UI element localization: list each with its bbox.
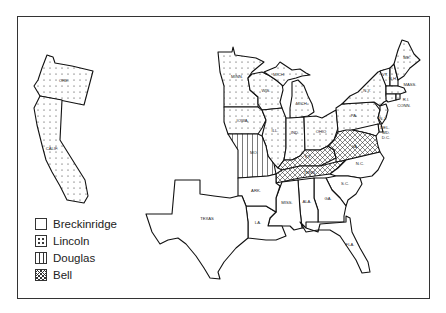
svg-text:OHIO: OHIO — [316, 129, 327, 134]
svg-text:ILL.: ILL. — [272, 128, 279, 133]
state-michigan: MICH. — [290, 80, 314, 118]
svg-text:N.Y.: N.Y. — [363, 88, 371, 93]
svg-text:KY.: KY. — [305, 154, 311, 159]
vertical-lines-swatch-icon — [35, 252, 47, 264]
svg-text:LA.: LA. — [255, 220, 261, 225]
svg-text:TEXAS: TEXAS — [200, 216, 214, 221]
svg-text:ORE.: ORE. — [59, 78, 69, 83]
svg-text:VT.: VT. — [382, 72, 388, 77]
svg-text:PA.: PA. — [351, 113, 357, 118]
svg-text:MISS.: MISS. — [281, 200, 292, 205]
crosshatch-swatch-icon — [35, 269, 47, 281]
state-new-jersey: N.J. — [378, 104, 388, 124]
svg-text:GA.: GA. — [324, 196, 331, 201]
dot-pattern-swatch-icon — [35, 235, 47, 247]
svg-text:FLA.: FLA. — [346, 242, 355, 247]
legend-item-bell: Bell — [35, 266, 117, 283]
state-rhode-island: R.I. — [396, 94, 409, 102]
svg-text:ME.: ME. — [403, 55, 410, 60]
svg-text:TENN.: TENN. — [304, 170, 317, 175]
state-texas: TEXAS — [146, 180, 248, 279]
svg-text:MICH.: MICH. — [273, 72, 285, 77]
svg-text:MASS.: MASS. — [403, 82, 416, 87]
svg-text:IND.: IND. — [291, 130, 299, 135]
svg-text:MICH.: MICH. — [296, 101, 308, 106]
svg-text:MINN.: MINN. — [231, 74, 243, 79]
svg-text:VA.: VA. — [352, 144, 358, 149]
svg-text:ALA.: ALA. — [302, 199, 311, 204]
svg-text:S.C.: S.C. — [341, 181, 349, 186]
state-florida: FLA. — [300, 216, 370, 273]
svg-text:R.I.: R.I. — [403, 97, 410, 102]
svg-text:D.C.: D.C. — [382, 135, 390, 140]
state-maine: ME. — [394, 40, 420, 80]
state-california: CALIF. — [34, 96, 88, 203]
state-iowa: IOWA — [224, 107, 266, 134]
svg-text:MO.: MO. — [250, 150, 258, 155]
svg-text:N.J.: N.J. — [379, 116, 386, 121]
svg-text:CALIF.: CALIF. — [46, 146, 59, 151]
legend: Breckinridge Lincoln Douglas Bell — [35, 215, 117, 283]
legend-item-lincoln: Lincoln — [35, 232, 117, 249]
svg-text:CONN.: CONN. — [397, 103, 411, 108]
svg-text:N.C.: N.C. — [356, 161, 364, 166]
blank-pattern-swatch-icon — [35, 218, 47, 230]
svg-text:N.H.: N.H. — [389, 76, 397, 81]
legend-item-douglas: Douglas — [35, 249, 117, 266]
svg-text:IOWA: IOWA — [236, 118, 247, 123]
dc: D.C. — [382, 135, 390, 140]
svg-text:WIS.: WIS. — [261, 88, 270, 93]
svg-text:ARK.: ARK. — [251, 188, 261, 193]
legend-item-breckinridge: Breckinridge — [35, 215, 117, 232]
